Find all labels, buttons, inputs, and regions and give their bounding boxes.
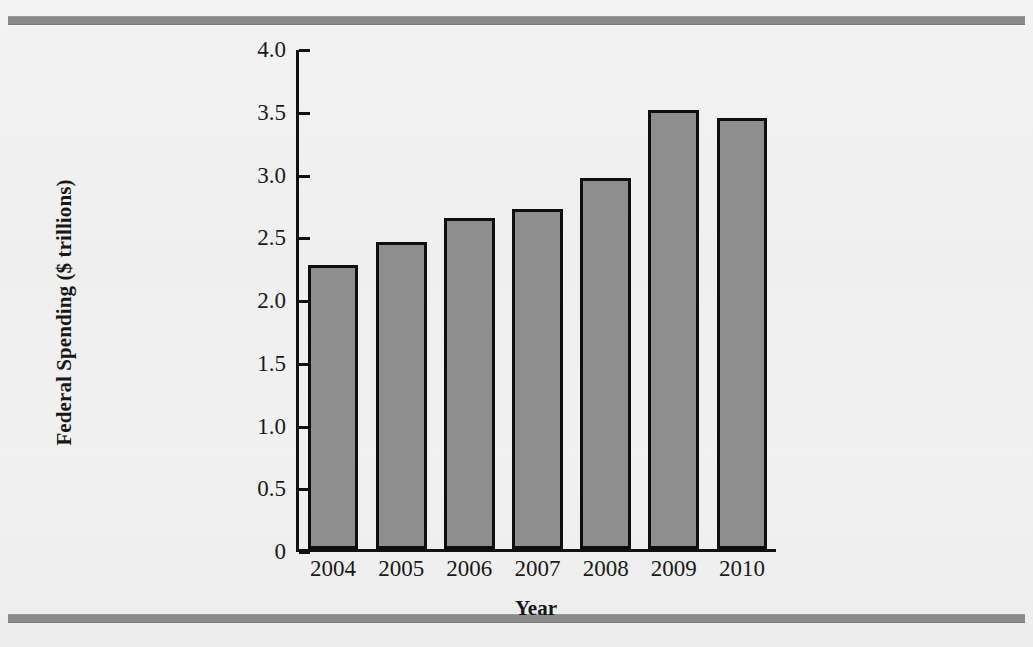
x-axis-line xyxy=(296,549,776,552)
bar-group: 2007 xyxy=(512,50,563,549)
x-tick-label: 2009 xyxy=(651,556,697,582)
x-tick-label: 2005 xyxy=(378,556,424,582)
y-tick-label: 2.5 xyxy=(257,225,286,251)
x-tick-label: 2010 xyxy=(719,556,765,582)
bar-group: 2009 xyxy=(648,50,699,549)
bar xyxy=(444,218,495,549)
bar-series: 2004200520062007200820092010 xyxy=(299,50,776,549)
bar-group: 2010 xyxy=(717,50,768,549)
y-tick-label: 4.0 xyxy=(257,37,286,63)
plot-area: 00.51.01.52.02.53.03.54.0 20042005200620… xyxy=(296,50,776,552)
bar xyxy=(717,118,768,549)
y-tick-label: 2.0 xyxy=(257,288,286,314)
bar xyxy=(308,265,359,549)
x-tick-label: 2004 xyxy=(310,556,356,582)
y-tick-label: 1.0 xyxy=(257,414,286,440)
y-axis-title: Federal Spending ($ trillions) xyxy=(52,103,77,523)
y-tick-label: 3.5 xyxy=(257,100,286,126)
bar-group: 2004 xyxy=(308,50,359,549)
x-axis-title: Year xyxy=(296,596,776,621)
bar xyxy=(580,178,631,549)
bar-group: 2006 xyxy=(444,50,495,549)
x-tick-label: 2007 xyxy=(514,556,560,582)
y-tick: 0 xyxy=(299,551,310,554)
bar xyxy=(648,110,699,549)
y-tick-label: 0 xyxy=(275,539,287,565)
bar-group: 2008 xyxy=(580,50,631,549)
bar-chart: Federal Spending ($ trillions) 00.51.01.… xyxy=(0,24,1033,609)
y-tick-label: 1.5 xyxy=(257,351,286,377)
figure-page: Federal Spending ($ trillions) 00.51.01.… xyxy=(0,0,1033,647)
x-tick-label: 2006 xyxy=(446,556,492,582)
y-tick-label: 0.5 xyxy=(257,476,286,502)
y-tick-label: 3.0 xyxy=(257,163,286,189)
bar xyxy=(376,242,427,549)
x-tick-label: 2008 xyxy=(583,556,629,582)
bar-group: 2005 xyxy=(376,50,427,549)
bar xyxy=(512,209,563,549)
